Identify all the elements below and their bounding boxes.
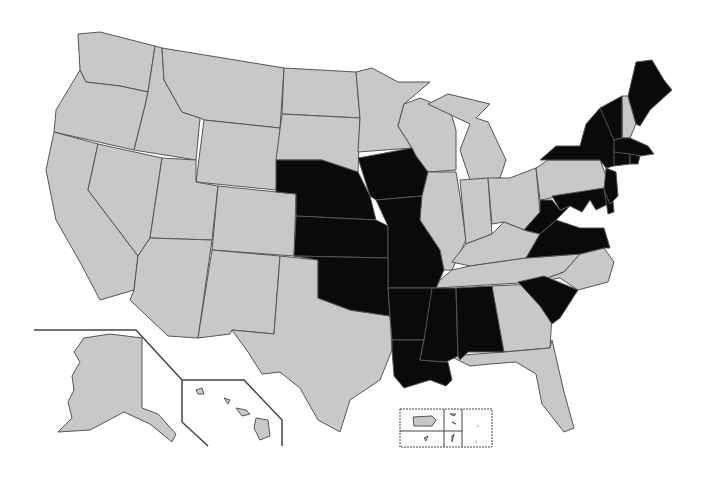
state-az[interactable] (130, 238, 212, 338)
state-co[interactable] (212, 186, 296, 256)
territory-mariana[interactable] (452, 434, 454, 442)
state-ks[interactable] (294, 216, 388, 258)
state-me[interactable] (628, 60, 672, 126)
state-in[interactable] (460, 178, 492, 244)
state-ak[interactable] (58, 334, 176, 442)
territory-minor[interactable] (475, 441, 477, 443)
territory-puerto-rico[interactable] (413, 416, 436, 426)
state-ct[interactable] (614, 152, 630, 166)
state-nd[interactable] (282, 68, 360, 118)
state-ri[interactable] (630, 154, 640, 164)
territory-samoa[interactable] (477, 425, 479, 427)
territories-inset-border (400, 409, 492, 447)
territory-usvi[interactable] (450, 414, 456, 424)
territories-inset (400, 409, 492, 447)
territory-guam[interactable] (424, 436, 428, 441)
us-state-map (0, 0, 718, 484)
state-fl[interactable] (450, 340, 574, 432)
state-nm[interactable] (198, 250, 280, 338)
state-wy[interactable] (196, 120, 280, 190)
